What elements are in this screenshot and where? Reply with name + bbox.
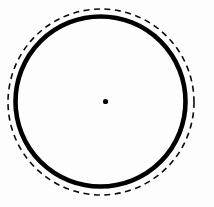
circle-diagram	[0, 0, 214, 207]
center-dot	[103, 99, 108, 104]
figure-canvas	[0, 0, 214, 207]
